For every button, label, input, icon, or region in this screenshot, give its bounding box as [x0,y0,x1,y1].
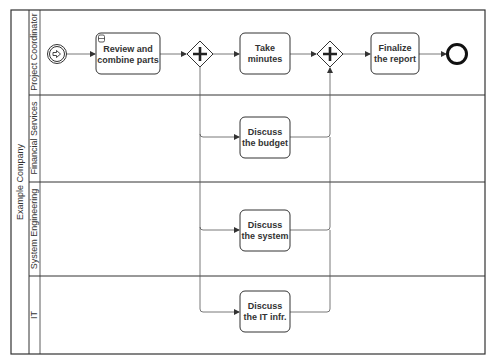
bpmn-diagram: Example Company Project Coordinator Fina… [0,0,494,361]
task-label: combine parts [97,55,159,65]
flow-split-it[interactable] [200,227,239,312]
flow-split-budget[interactable] [200,67,239,137]
lane-label: Financial Services [29,101,39,175]
lane-label: System Engineering [29,189,39,270]
pool-label: Example Company [15,143,25,220]
lane-label: IT [29,310,39,319]
task-label: the system [241,231,288,241]
task-discuss-the-it-infr[interactable]: Discuss the IT infr. [240,291,290,332]
task-label: Review and [103,44,153,54]
task-label: the budget [242,138,288,148]
parallel-gateway-split[interactable] [187,41,213,67]
flow-it-join[interactable] [290,230,330,312]
parallel-gateway-join[interactable] [317,41,343,67]
task-label: the IT infr. [243,312,286,322]
sequence-flows [66,54,446,312]
task-label: Discuss [248,220,283,230]
task-take-minutes[interactable]: Take minutes [240,33,290,74]
task-label: the report [374,54,416,64]
task-label: Take [255,43,275,53]
task-label: Finalize [378,43,411,53]
lane-label: Project Coordinator [29,13,39,91]
task-label: minutes [248,54,283,64]
flow-system-join[interactable] [290,137,330,230]
task-finalize-the-report[interactable]: Finalize the report [371,33,419,74]
task-discuss-the-system[interactable]: Discuss the system [240,210,290,251]
task-label: Discuss [248,301,283,311]
subprocess-icon [99,35,105,42]
task-review-and-combine-parts[interactable]: Review and combine parts [96,33,160,74]
task-discuss-the-budget[interactable]: Discuss the budget [240,117,290,158]
end-event[interactable] [448,45,467,64]
lane-it[interactable]: IT [29,276,40,354]
start-event[interactable] [48,45,67,64]
flow-budget-join[interactable] [290,68,330,137]
task-label: Discuss [248,127,283,137]
